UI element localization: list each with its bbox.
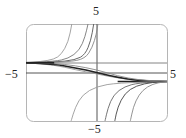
curve-blowdown-3 — [115, 82, 167, 122]
curve-blowup-up-1 — [26, 24, 72, 63]
x-tick-left: −5 — [5, 68, 18, 80]
x-tick-right: 5 — [170, 68, 176, 80]
curve-blowdown-4 — [130, 82, 167, 121]
y-tick-top: 5 — [93, 5, 99, 17]
y-tick-bottom: −5 — [88, 123, 101, 135]
curve-blowup-up-3 — [26, 24, 94, 63]
curve-blowdown-1 — [71, 82, 167, 122]
plot-area — [0, 0, 186, 138]
